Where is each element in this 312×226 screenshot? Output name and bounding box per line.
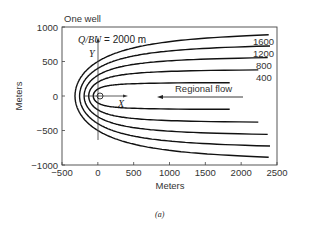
capture-zone-chart: −50005001000150020002500−1000−5000500100… — [0, 0, 312, 226]
figure-caption: (a) — [155, 210, 165, 219]
x-tick-label: 2500 — [266, 167, 287, 178]
x-tick-label: 500 — [126, 167, 142, 178]
x-axis-label: Meters — [155, 180, 184, 191]
local-y-label: Y — [89, 48, 96, 59]
y-tick-label: −1000 — [31, 160, 58, 171]
x-tick-label: 2000 — [231, 167, 252, 178]
axis-ticks: −50005001000150020002500−1000−5000500100… — [31, 22, 287, 179]
chart-annotation: Q/BU = 2000 m — [78, 34, 146, 45]
flow-arrowhead-icon — [157, 95, 163, 99]
x-tick-label: 1000 — [159, 167, 180, 178]
y-tick-label: 1000 — [37, 22, 58, 33]
regional-flow-label: Regional flow — [175, 83, 232, 94]
y-tick-label: 0 — [53, 91, 58, 102]
y-axis-label: Meters — [13, 81, 24, 110]
x-tick-label: 0 — [95, 167, 100, 178]
curve-label-400: 400 — [256, 72, 272, 83]
y-tick-label: −500 — [37, 125, 58, 136]
y-tick-label: 500 — [42, 56, 58, 67]
curve-label-1600: 1600 — [253, 36, 274, 47]
x-tick-label: 1500 — [195, 167, 216, 178]
curve-label-1200: 1200 — [253, 48, 274, 59]
local-x-label: X — [117, 98, 125, 109]
chart-title: One well — [64, 13, 101, 24]
curve-label-800: 800 — [256, 60, 272, 71]
